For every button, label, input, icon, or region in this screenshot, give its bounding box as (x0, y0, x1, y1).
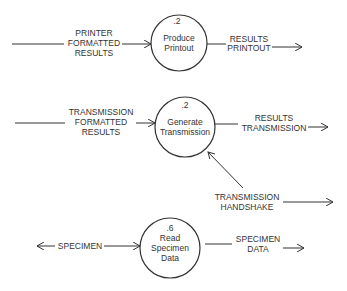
process-label-line: Printout (164, 43, 194, 53)
flow-label-line: PRINTOUT (227, 43, 270, 53)
process-label-line: Transmission (160, 127, 210, 137)
flow-label-line: RESULTS (82, 127, 121, 137)
process-label-line: Produce (163, 33, 195, 43)
flow-label-line: DATA (247, 244, 269, 254)
flow-label-line: RESULTS (75, 48, 114, 58)
flow-label-line: TRANSMISSION (215, 192, 280, 202)
flow-label-line: HANDSHAKE (221, 202, 274, 212)
flow-label-line: TRANSMISSION (242, 123, 307, 133)
flow-label-line: TRANSMISSION (69, 107, 134, 117)
flow-label-line: FORMATTED (68, 38, 120, 48)
process-produce-printout: .2 Produce Printout (151, 15, 207, 71)
process-label-line: Data (161, 253, 179, 263)
flow-results-transmission: RESULTS TRANSMISSION (215, 113, 328, 133)
process-generate-transmission: .2 Generate Transmission (155, 97, 215, 157)
flow-label-line: PRINTER (75, 28, 112, 38)
process-number: .2 (181, 100, 188, 110)
flow-arrow (208, 152, 243, 188)
flow-printer-formatted-results: PRINTER FORMATTED RESULTS (12, 28, 151, 58)
flow-label-line: SPECIMEN (58, 241, 102, 251)
flow-specimen-data: SPECIMEN DATA (205, 234, 304, 254)
process-label-line: Specimen (151, 243, 189, 253)
process-read-specimen-data: .6 Read Specimen Data (140, 218, 200, 278)
process-number: .6 (166, 223, 173, 233)
flow-label-line: FORMATTED (75, 117, 127, 127)
flow-label-line: RESULTS (255, 113, 294, 123)
data-flow-diagram: .2 Produce Printout PRINTER FORMATTED RE… (0, 0, 347, 291)
flow-label-line: SPECIMEN (236, 234, 280, 244)
flow-results-printout: RESULTS PRINTOUT (207, 34, 302, 53)
flow-transmission-handshake: TRANSMISSION HANDSHAKE (208, 152, 333, 212)
process-label-line: Read (160, 233, 181, 243)
flow-transmission-formatted-results: TRANSMISSION FORMATTED RESULTS (15, 107, 155, 137)
flow-specimen: SPECIMEN (37, 241, 140, 251)
process-number: .2 (173, 16, 180, 26)
process-label-line: Generate (167, 117, 203, 127)
